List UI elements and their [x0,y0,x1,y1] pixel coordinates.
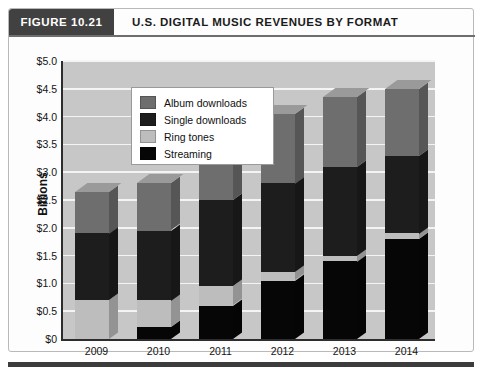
bar-segment-streaming [137,327,171,339]
segment-front-face [385,239,419,339]
figure-card: FIGURE 10.21 U.S. DIGITAL MUSIC REVENUES… [8,8,474,352]
bar-segment-streaming [199,306,233,339]
gridline [63,199,435,201]
segment-front-face [199,286,233,305]
bar-segment-streaming [261,281,295,339]
segment-side-face [233,299,242,339]
y-axis-tick-label: $3.0 [37,166,57,178]
legend-swatch [140,130,156,143]
figure-title: U.S. DIGITAL MUSIC REVENUES BY FORMAT [114,9,475,35]
bar-segment-streaming [385,239,419,339]
legend-label: Streaming [164,148,212,160]
bar-segment-ring-tones [261,272,295,280]
y-axis-tick-label: $0.5 [37,305,57,317]
gridline [63,255,435,257]
bar-2010 [137,183,171,339]
bar-segment-single-downloads [199,200,233,286]
bar-2009 [75,192,109,339]
x-axis-tick-label: 2012 [271,345,294,357]
segment-front-face [261,272,295,280]
y-axis-tick-label: $2.5 [37,194,57,206]
legend-item-streaming: Streaming [140,145,265,162]
y-axis-tick-label: $1.0 [37,277,57,289]
y-axis-tick-label: $5.0 [37,55,57,67]
legend-label: Single downloads [164,114,246,126]
x-axis-tick-label: 2014 [395,345,418,357]
chart-area: Billions $0$0.5$1.0$1.5$2.0$2.5$3.0$3.5$… [9,37,475,353]
x-axis-tick-label: 2013 [333,345,356,357]
y-axis-tick-label: $3.5 [37,138,57,150]
bar-segment-ring-tones [199,286,233,305]
segment-front-face [199,306,233,339]
segment-side-face [357,91,366,167]
segment-front-face [385,89,419,156]
bar-segment-single-downloads [261,183,295,272]
y-axis-tick-label: $2.0 [37,222,57,234]
bar-2011 [199,139,233,339]
segment-side-face [171,177,180,231]
x-axis-tick-label: 2010 [147,345,170,357]
bar-segment-single-downloads [385,156,419,234]
segment-front-face [137,300,171,327]
bar-segment-album-downloads [75,192,109,234]
bar-segment-ring-tones [323,256,357,262]
segment-front-face [323,256,357,262]
x-axis-tick-label: 2011 [209,345,232,357]
plot-area: $0$0.5$1.0$1.5$2.0$2.5$3.0$3.5$4.0$4.5$5… [61,61,435,341]
segment-front-face [137,183,171,230]
segment-front-face [199,200,233,286]
segment-front-face [75,300,109,339]
segment-front-face [137,327,171,339]
bar-segment-streaming [323,261,357,339]
segment-side-face [109,227,118,300]
segment-side-face [109,185,118,233]
segment-side-face [419,232,428,339]
figure-header: FIGURE 10.21 U.S. DIGITAL MUSIC REVENUES… [9,9,475,35]
legend-swatch [140,113,156,126]
segment-side-face [295,107,304,183]
segment-side-face [419,149,428,233]
chart-legend: Album downloadsSingle downloadsRing tone… [131,87,274,165]
segment-front-face [323,261,357,339]
figure-source-note [8,370,474,384]
bar-2013 [323,97,357,339]
bar-2014 [385,89,419,339]
segment-front-face [385,233,419,239]
gridline [63,310,435,312]
y-axis-tick-label: $4.0 [37,111,57,123]
figure-number-tab: FIGURE 10.21 [9,9,114,35]
segment-side-face [357,255,366,339]
gridline [63,171,435,173]
segment-front-face [75,192,109,234]
bar-segment-ring-tones [385,233,419,239]
footer-divider [8,362,474,367]
legend-item-single-downloads: Single downloads [140,111,265,128]
legend-label: Album downloads [164,97,247,109]
gridline [63,227,435,229]
segment-side-face [171,224,180,300]
bar-segment-album-downloads [323,97,357,167]
segment-side-face [295,274,304,339]
bar-segment-single-downloads [75,233,109,300]
segment-side-face [233,193,242,286]
segment-front-face [137,231,171,301]
y-axis-tick-label: $0 [45,333,57,345]
gridline [63,283,435,285]
legend-item-ring-tones: Ring tones [140,128,265,145]
bar-segment-album-downloads [385,89,419,156]
y-axis-tick-label: $1.5 [37,250,57,262]
bar-segment-single-downloads [137,231,171,301]
y-axis-tick-label: $4.5 [37,83,57,95]
legend-label: Ring tones [164,131,214,143]
segment-front-face [261,281,295,339]
bar-segment-ring-tones [137,300,171,327]
legend-swatch [140,147,156,160]
bar-segment-ring-tones [75,300,109,339]
segment-front-face [323,167,357,256]
x-axis-tick-label: 2009 [85,345,108,357]
segment-side-face [419,82,428,155]
segment-front-face [323,97,357,167]
segment-front-face [385,156,419,234]
gridline [63,60,435,62]
segment-side-face [295,177,304,272]
